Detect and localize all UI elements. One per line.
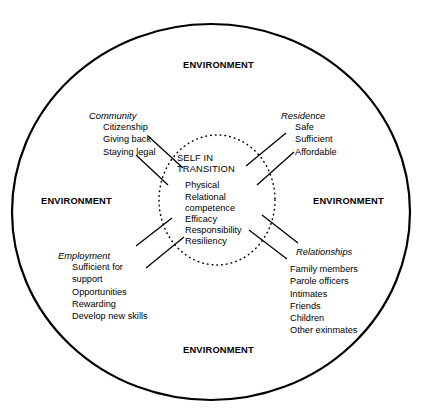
core-attribute-item: Physical (185, 180, 242, 191)
cluster-residence-item: Affordable (295, 147, 337, 158)
core-attribute-item: Responsibility (185, 225, 242, 236)
cluster-community-title: Community (89, 110, 156, 121)
cluster-relationships-items: Family members Parole officers Intimates… (290, 264, 358, 336)
cluster-relationships-title: Relationships (290, 246, 358, 257)
cluster-residence-items: Safe Sufficient Affordable (281, 122, 337, 158)
cluster-relationships: Relationships Family members Parole offi… (290, 246, 358, 336)
core-attribute-item: Resiliency (185, 236, 242, 247)
cluster-residence-item: Safe (295, 122, 337, 133)
cluster-employment-item: Opportunities (72, 287, 148, 298)
cluster-community-item: Giving back (103, 134, 156, 145)
cluster-employment: Employment Sufficient for support Opport… (58, 250, 148, 322)
core-attribute-list: Physical Relational competence Efficacy … (177, 180, 242, 247)
core-attribute-item: competence (185, 203, 242, 214)
cluster-residence-item: Sufficient (295, 134, 337, 145)
cluster-employment-title: Employment (58, 250, 148, 261)
environment-label-right: ENVIRONMENT (313, 196, 384, 207)
core-attribute-item: Efficacy (185, 214, 242, 225)
core-self-in-transition: SELF IN TRANSITION Physical Relational c… (177, 152, 242, 248)
cluster-employment-items: Sufficient for support Opportunities Rew… (58, 262, 148, 322)
diagram-canvas: ENVIRONMENT ENVIRONMENT ENVIRONMENT ENVI… (0, 0, 435, 419)
cluster-relationships-item: Family members (290, 264, 358, 275)
cluster-residence: Residence Safe Sufficient Affordable (281, 110, 337, 158)
core-title-line-2: TRANSITION (177, 163, 242, 174)
cluster-employment-item: Sufficient for (72, 262, 148, 273)
cluster-relationships-item: Parole officers (290, 276, 358, 287)
environment-label-bottom: ENVIRONMENT (183, 345, 254, 356)
environment-label-left: ENVIRONMENT (41, 196, 112, 207)
cluster-relationships-item: Intimates (290, 289, 358, 300)
cluster-employment-item: support (72, 274, 148, 285)
cluster-employment-item: Develop new skills (72, 311, 148, 322)
core-title-line-1: SELF IN (177, 152, 242, 163)
environment-label-top: ENVIRONMENT (183, 60, 254, 71)
cluster-relationships-item: Friends (290, 301, 358, 312)
cluster-community: Community Citizenship Giving back Stayin… (89, 110, 156, 158)
cluster-relationships-item: Other exinmates (290, 325, 358, 336)
cluster-residence-title: Residence (281, 110, 337, 121)
cluster-community-item: Citizenship (103, 122, 156, 133)
core-attribute-item: Relational (185, 192, 242, 203)
cluster-community-item: Staying legal (103, 147, 156, 158)
cluster-relationships-item: Children (290, 313, 358, 324)
cluster-employment-item: Rewarding (72, 299, 148, 310)
cluster-community-items: Citizenship Giving back Staying legal (89, 122, 156, 158)
